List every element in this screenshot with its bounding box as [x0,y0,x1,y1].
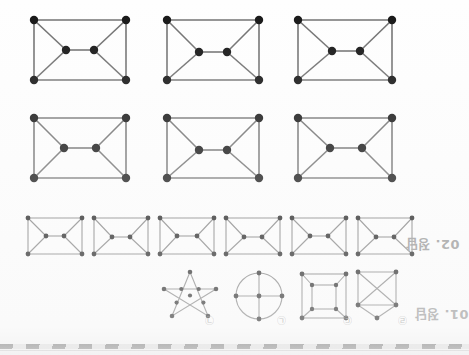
graph-g3-1 [24,214,86,258]
graph-vertices [92,216,151,257]
graph-edges [292,218,346,254]
graph-edges [28,218,82,254]
graph-edges [34,118,126,178]
bottom-rule [0,350,469,351]
graph-g3-2 [90,214,152,258]
figure-k4-plus-apex [352,268,404,322]
figure-marker-b: ㉡ [277,314,286,327]
graph-g1-1 [28,14,132,86]
graph-edges [160,218,214,254]
graph-g1-2 [161,14,265,86]
graph-g2-2 [161,112,265,184]
graph-g1-3 [292,14,398,86]
figure-marker-c: ㉢ [343,314,352,327]
scanned-page: 02. 정답 [0,0,469,355]
graph-g3-5 [288,214,350,258]
graph-vertices [294,16,396,84]
answer-label-02: 02. 정답 [405,236,460,255]
graph-edges [167,20,259,80]
graph-g2-3 [292,112,398,184]
graph-edges [226,218,280,254]
k4-vertices [356,270,399,321]
figure-marker-d: ㉣ [398,314,407,327]
k4-edges [358,272,396,318]
graph-vertices [224,216,283,257]
graph-g2-1 [28,112,132,184]
graph-g3-3 [156,214,218,258]
graph-edges [34,20,126,80]
graph-edges [298,118,392,178]
graph-edges [167,118,259,178]
graph-vertices [163,16,263,84]
graph-vertices [163,114,263,182]
graph-edges [94,218,148,254]
graph-edges [298,20,392,80]
answer-label-01: 01. 정답 [414,306,469,325]
star-vertices [162,270,219,319]
scanner-edge-strip [0,344,469,349]
graph-edges [358,218,412,254]
cube-edges [302,274,346,318]
figure-marker-a: ㉠ [205,314,214,327]
graph-g3-4 [222,214,284,258]
